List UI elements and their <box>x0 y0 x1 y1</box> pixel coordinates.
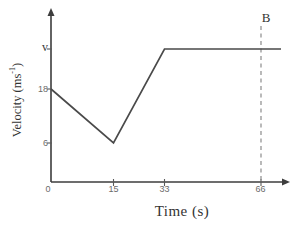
x-tick-label-33: 33 <box>156 184 173 194</box>
x-tick-label-15: 15 <box>105 184 122 194</box>
x-tick-label-0: 0 <box>41 184 55 194</box>
y-axis-arrow-icon <box>48 8 55 16</box>
x-tick-label-66: 66 <box>252 184 269 194</box>
x-axis-arrow-icon <box>282 179 290 186</box>
y-tick-label-6: 6 <box>28 138 48 148</box>
y-axis-title: Velocity (ms-1) <box>6 30 22 170</box>
y-tick-label-v: v <box>28 41 48 53</box>
x-axis-title: Time (s) <box>122 203 242 219</box>
chart-svg <box>0 0 300 229</box>
y-tick-label-18: 18 <box>28 84 48 94</box>
point-b-label: B <box>258 11 274 24</box>
velocity-line <box>51 49 281 143</box>
velocity-time-graph: B v 18 6 0 15 33 66 Time (s) Velocity (m… <box>0 0 300 229</box>
y-axis-title-superscript: -1 <box>8 67 17 74</box>
y-axis-title-text: Velocity (ms <box>10 74 24 138</box>
